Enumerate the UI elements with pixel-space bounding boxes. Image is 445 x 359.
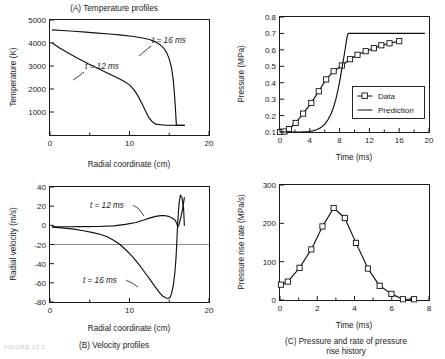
panel-c-marker [324, 77, 329, 82]
panel-b-ytick-label: 0 [42, 221, 47, 230]
panel-d-marker [285, 279, 290, 284]
panel-c-xtick-label: 12 [365, 136, 374, 145]
panel-a-label-t12: t = 12 ms [85, 62, 119, 71]
panel-a-ytick-label: 1000 [28, 108, 46, 117]
panel-c-y-axis-title: Pressure (MPa) [237, 45, 246, 103]
panel-d-pressure-rise-rate: 024680100200300 Time (ms) Pressure rise … [224, 172, 445, 352]
panel-c-ytick-label: 0.3 [265, 95, 277, 104]
panel-a-xtick-label: 0 [48, 139, 53, 148]
panel-a-y-axis-title: Temperature (K) [9, 47, 18, 106]
panel-d-xtick-label: 2 [315, 304, 320, 313]
panel-b-ytick-label: -20 [34, 241, 46, 250]
panel-b-plot-area: 01020-80-60-40-2002040 [34, 183, 214, 315]
panel-c-ytick-label: 0.5 [265, 62, 277, 71]
panel-d-xtick-label: 0 [278, 304, 283, 313]
panel-d-xtick-label: 8 [427, 304, 432, 313]
panel-d-marker [377, 283, 382, 288]
panel-d-ytick-label: 100 [263, 258, 277, 267]
panel-c-ytick-label: 0.7 [265, 29, 277, 38]
legend-label-prediction: Prediction [378, 106, 414, 115]
figure-panel-grid: (A) Temperature profiles 010201000200030… [0, 0, 445, 359]
panel-c-marker [301, 111, 306, 116]
panel-d-marker [320, 224, 325, 229]
panel-b-ytick-label: -80 [34, 298, 46, 307]
panel-c-x-axis-title: Time (ms) [336, 153, 373, 162]
panel-d-x-axis-title: Time (ms) [336, 321, 373, 330]
panel-c-marker [316, 89, 321, 94]
panel-a-title: (A) Temperature profiles [70, 4, 158, 13]
panel-d-ytick-label: 200 [263, 219, 277, 228]
panel-b-label-t12: t = 12 ms [90, 201, 124, 210]
panel-c-ytick-label: 0.8 [265, 13, 277, 22]
panel-a-ticks: 0102010002000300040005000 [28, 16, 214, 148]
panel-d-plot-area: 024680100200300 [263, 181, 432, 313]
panel-b-xtick-label: 0 [48, 306, 53, 315]
figure-footer-note: FIGURE 12.2 [4, 344, 46, 350]
panel-c-marker [293, 120, 298, 125]
panel-b-x-axis-title: Radial coordinate (cm) [88, 324, 171, 333]
panel-c-xtick-label: 0 [278, 136, 283, 145]
panel-a-ytick-label: 2000 [28, 85, 46, 94]
panel-a-svg: (A) Temperature profiles 010201000200030… [0, 0, 228, 175]
panel-c-curves [277, 33, 424, 134]
panel-d-ytick-label: 0 [272, 296, 277, 305]
panel-b-ytick-label: 20 [37, 202, 46, 211]
panel-c-marker [347, 57, 352, 62]
panel-d-marker [342, 215, 347, 220]
panel-a-xtick-label: 20 [205, 139, 214, 148]
panel-c-xtick-label: 20 [425, 136, 434, 145]
panel-a-label-t16: t = 16 ms [152, 36, 186, 45]
legend-label-data: Data [378, 92, 395, 101]
panel-c-caption-line1: (C) Pressure and rate of pressure [285, 337, 407, 346]
panel-c-pressure-history: 0481216200.10.20.30.40.50.60.70.8 Time (… [224, 0, 445, 175]
panel-a-ytick-label: 4000 [28, 39, 46, 48]
panel-d-marker [412, 297, 417, 302]
panel-d-svg: 024680100200300 Time (ms) Pressure rise … [224, 172, 445, 352]
panel-c-ytick-label: 0.2 [265, 112, 277, 121]
panel-d-marker [365, 266, 370, 271]
panel-a-x-axis-title: Radial coordinate (cm) [88, 160, 171, 169]
panel-a-temperature-profiles: (A) Temperature profiles 010201000200030… [0, 0, 228, 175]
panel-d-marker [309, 247, 314, 252]
panel-b-velocity-profiles: 01020-80-60-40-2002040 Radial coordinate… [0, 172, 228, 352]
panel-a-series-1 [52, 43, 184, 125]
panel-d-marker [278, 282, 283, 287]
panel-c-xtick-label: 8 [337, 136, 342, 145]
panel-b-ytick-label: -40 [34, 260, 46, 269]
panel-c-marker [286, 126, 291, 131]
panel-c-ytick-label: 0.6 [265, 46, 277, 55]
panel-a-xtick-label: 10 [125, 139, 134, 148]
panel-d-marker [297, 265, 302, 270]
panel-d-marker [353, 240, 358, 245]
panel-b-xtick-label: 20 [205, 306, 214, 315]
panel-b-ytick-label: 40 [37, 183, 46, 192]
panel-d-ticks: 024680100200300 [263, 181, 432, 313]
panel-c-legend[interactable]: Data Prediction [353, 87, 425, 119]
panel-a-ytick-label: 5000 [28, 16, 46, 25]
panel-c-marker [371, 46, 376, 51]
panel-c-marker [387, 41, 392, 46]
panel-c-ytick-label: 0.4 [265, 79, 277, 88]
panel-d-marker [400, 297, 405, 302]
panel-b-title: (B) Velocity profiles [79, 341, 149, 350]
panel-c-xtick-label: 4 [308, 136, 313, 145]
panel-c-marker [331, 69, 336, 74]
panel-d-xtick-label: 4 [352, 304, 357, 313]
panel-a-plot-area: 0102010002000300040005000 [28, 16, 214, 148]
panel-b-curves [52, 195, 184, 298]
panel-d-xtick-label: 6 [390, 304, 395, 313]
panel-d-curves [278, 205, 416, 301]
panel-b-svg: 01020-80-60-40-2002040 Radial coordinate… [0, 172, 228, 352]
panel-b-series-1 [52, 195, 184, 298]
panel-c-marker [379, 43, 384, 48]
panel-d-ytick-label: 300 [263, 181, 277, 190]
panel-b-xtick-label: 10 [125, 306, 134, 315]
panel-c-caption-line2: rise history [326, 347, 366, 356]
panel-b-label-t16: t = 16 ms [83, 276, 117, 285]
panel-b-ytick-label: -60 [34, 279, 46, 288]
panel-d-series-0 [281, 208, 414, 299]
panel-a-ytick-label: 3000 [28, 62, 46, 71]
panel-d-marker [331, 205, 336, 210]
panel-c-ytick-label: 0.1 [265, 128, 277, 137]
panel-c-marker [363, 49, 368, 54]
